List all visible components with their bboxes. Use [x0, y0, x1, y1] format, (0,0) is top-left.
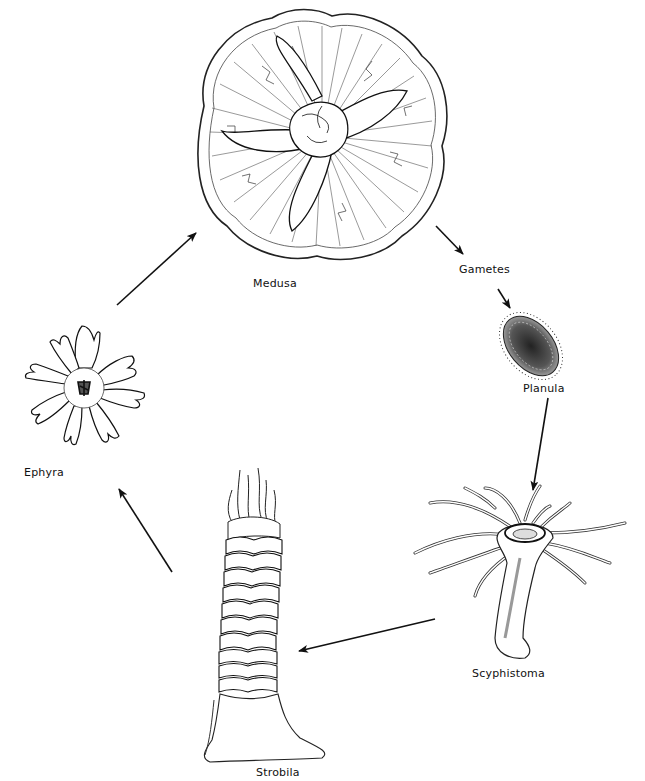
strobila-illustration — [204, 468, 324, 762]
arrow-ephyra-to-medusa — [117, 233, 196, 305]
label-strobila: Strobila — [256, 766, 300, 779]
arrow-gametes-to-planula — [498, 289, 510, 308]
label-gametes: Gametes — [459, 263, 510, 276]
arrow-medusa-to-gametes — [436, 226, 463, 254]
label-ephyra: Ephyra — [24, 466, 64, 479]
arrow-strobila-to-ephyra — [119, 489, 172, 572]
arrow-scyphistoma-to-strobila — [299, 619, 435, 651]
label-planula: Planula — [523, 382, 565, 395]
label-medusa: Medusa — [253, 277, 297, 290]
medusa-illustration — [198, 10, 447, 260]
planula-illustration — [487, 300, 576, 392]
ephyra-illustration — [25, 326, 144, 445]
scyphistoma-illustration — [415, 486, 625, 658]
arrow-planula-to-scyphistoma — [533, 398, 548, 490]
life-cycle-diagram: Medusa Gametes Planula Scyphistoma Strob… — [0, 0, 645, 781]
label-scyphistoma: Scyphistoma — [472, 667, 545, 680]
